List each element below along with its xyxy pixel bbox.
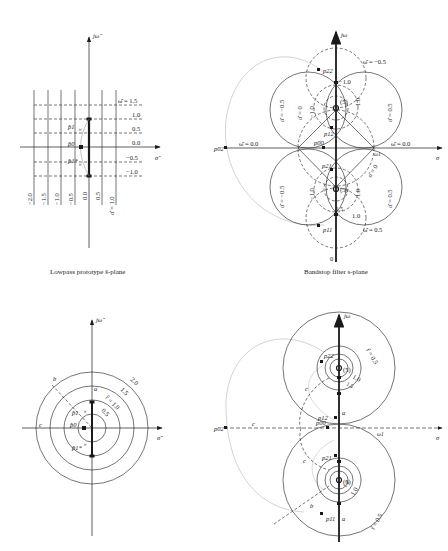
lowpass-grid-figure: × × p̂1 p̂0 p̂1* ω̂ = 1.5 1.0 0.5 0.0 −0…	[0, 0, 224, 280]
label-omega-neg-0-5: ω̂ = −0.5	[363, 58, 386, 65]
label-zero-count-bottom: (5)	[343, 478, 351, 486]
label-omega-0-left: ω̂ = 0.0	[239, 140, 258, 147]
label-omega1: ω1	[374, 151, 381, 157]
svg-text:−2.0: −2.0	[26, 193, 33, 205]
pole-label-p21: p21	[321, 454, 332, 461]
pole-label-p22: p22	[322, 67, 334, 74]
pole-label-p0: p̂0	[69, 421, 77, 428]
label-one-five-bottom: 1.5	[336, 206, 343, 212]
pole-label-p22: p22	[323, 352, 335, 359]
pole-label-p12: p12	[323, 130, 335, 137]
pole-label-p1: p̂1	[67, 123, 75, 130]
panel-lowpass-grid: × × p̂1 p̂0 p̂1* ω̂ = 1.5 1.0 0.5 0.0 −0…	[0, 0, 224, 280]
omega-label-1-0: 1.0	[132, 111, 140, 118]
omega-label-0-0: 0.0	[132, 139, 140, 146]
path-label-b: b	[53, 375, 57, 382]
label-omega-0-right: ω̂ = 0.0	[391, 140, 410, 147]
pole-label-p02: p02	[213, 145, 225, 152]
path-label-a-top: a	[342, 409, 345, 416]
pole-label-p1-conj: p̂1*	[71, 444, 83, 451]
pole-label-p00: p00	[315, 419, 327, 426]
label-omega-0-5: ω̂ = 0.5	[363, 226, 382, 233]
pole-label-p02: p02	[213, 425, 225, 432]
pole-label-p00: p00	[313, 139, 325, 146]
svg-text:0.0: 0.0	[81, 192, 88, 200]
svg-text:σ̂ = 1.0: σ̂ = 1.0	[108, 196, 115, 215]
radius-label-1-5: 1.5	[119, 386, 130, 397]
svg-text:σ̂ = −0.5: σ̂ = −0.5	[278, 186, 285, 208]
bandstop-polar-figure: p22 p12 p00 p21 p11 p02 r̂ = 0.5 1.0 1.5…	[224, 280, 448, 551]
sigma-hat-axis-label: σ̂	[155, 154, 161, 161]
sigma-axis-label: σ	[436, 154, 440, 161]
svg-text:×: ×	[78, 126, 82, 133]
jomega-hat-axis-label: jω̂	[95, 316, 105, 323]
path-label-c: c	[39, 421, 42, 428]
pole-label-p1: p̂1	[71, 409, 79, 416]
svg-text:×: ×	[83, 441, 87, 448]
label-origin: 0	[330, 255, 333, 262]
pole-label-p1-conj: p̂1*	[67, 157, 79, 164]
path-label-a-bottom: a	[342, 515, 345, 522]
jomega-axis-label: jω	[340, 31, 348, 38]
panel-bandstop-polar: p22 p12 p00 p21 p11 p02 r̂ = 0.5 1.0 1.5…	[224, 280, 448, 551]
svg-text:−0.5: −0.5	[67, 193, 74, 205]
sigma-axis-label: σ	[436, 434, 440, 441]
grey-locus-arc	[226, 339, 324, 512]
svg-text:σ̂ = 0.5: σ̂ = 0.5	[386, 189, 393, 208]
svg-text:×: ×	[78, 161, 82, 168]
svg-text:1.0: 1.0	[354, 98, 361, 106]
svg-text:−1.0: −1.0	[308, 106, 315, 118]
pole-label-p21: p21	[321, 162, 332, 169]
sigma-grid-lines	[34, 90, 116, 205]
svg-text:−1.0: −1.0	[308, 188, 315, 200]
pole-label-p11: p11	[322, 226, 332, 233]
caption-lowpass-prototype: Lowpass prototype ŝ-plane	[50, 268, 125, 276]
radius-label-top-1-0: 1.0	[352, 373, 363, 383]
path-b-line	[274, 486, 329, 524]
svg-text:σ̂ = 0: σ̂ = 0	[366, 163, 379, 178]
pole-label-p0: p̂0	[67, 140, 75, 147]
path-label-a: a	[94, 385, 97, 392]
svg-text:−1.0: −1.0	[53, 193, 60, 205]
omega-label-neg-1-0: −1.0	[126, 168, 138, 175]
sigma-labels: −2.0 −1.5 −1.0 −0.5 0.0 0.5 σ̂ = 1.0	[26, 192, 115, 215]
omega-label-0-5: 0.5	[132, 125, 140, 132]
radius-label-2-0: 2.0	[129, 376, 140, 387]
label-minus-one-top: −1.0	[339, 78, 351, 85]
svg-text:σ̂ = 0: σ̂ = 0	[296, 106, 303, 120]
lowpass-polar-figure: × × p̂1 p̂0 p̂1* 2.0 1.5 r̂ = 1.0 0.5 a …	[0, 280, 224, 551]
path-label-c-lower: c	[303, 457, 306, 464]
omega-label-neg-0-5: −0.5	[126, 154, 138, 161]
label-one-bottom: 1.0	[352, 212, 360, 219]
bandstop-grid-figure: p22 p12 p00 p21 p11 p02 ω̂ = −0.5 ω̂ = 0…	[224, 0, 448, 280]
pole-label-p11: p11	[325, 515, 335, 522]
svg-text:×: ×	[83, 408, 87, 415]
label-zero-count-bottom: (5)	[340, 186, 348, 194]
radius-label-bottom-0-5: r̂ = 0.5	[369, 512, 384, 531]
radius-label-bottom-1-0: 1.0	[349, 486, 359, 497]
label-zero-count-top: (5)	[343, 366, 351, 374]
path-label-b: b	[310, 502, 314, 509]
jomega-axis-label: jω	[343, 312, 351, 319]
panel-lowpass-polar: × × p̂1 p̂0 p̂1* 2.0 1.5 r̂ = 1.0 0.5 a …	[0, 280, 224, 551]
omega-label-1-5: ω̂ = 1.5	[118, 97, 137, 104]
svg-text:0.5: 0.5	[94, 192, 101, 200]
caption-bandstop-filter: Bandstop filter s-plane	[304, 268, 368, 276]
radius-label-0-5: 0.5	[100, 407, 111, 418]
jomega-hat-axis-label: jω̂	[92, 32, 102, 39]
path-label-c-axis: c	[252, 420, 255, 427]
label-zero-count-top: (5)	[340, 98, 348, 106]
svg-text:1.0: 1.0	[354, 189, 361, 197]
label-omega1: ω1	[377, 431, 384, 437]
svg-text:σ̂ = 0.5: σ̂ = 0.5	[386, 103, 393, 122]
path-label-c-upper: c	[305, 385, 308, 392]
sigma-hat-axis-label: σ̂	[157, 434, 163, 441]
svg-text:σ̂ = −0.5: σ̂ = −0.5	[278, 100, 285, 122]
svg-text:−1.5: −1.5	[40, 193, 47, 205]
radius-label-top-1-5: 1.5	[346, 381, 355, 390]
radius-label-top-0-5: r̂ = 0.5	[365, 347, 380, 366]
panel-bandstop-grid: p22 p12 p00 p21 p11 p02 ω̂ = −0.5 ω̂ = 0…	[224, 0, 448, 280]
